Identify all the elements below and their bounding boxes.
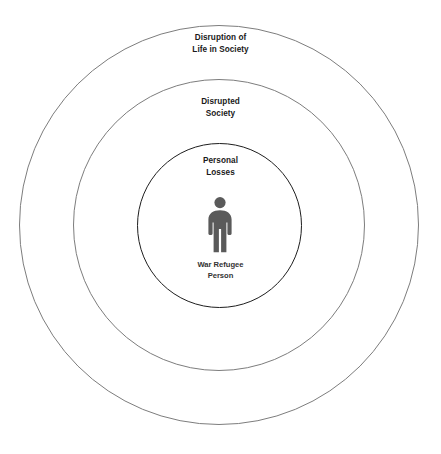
concentric-circles-diagram: Disruption of Life in Society Disrupted …	[0, 0, 441, 454]
person-icon	[204, 196, 236, 254]
ring-inner-label: Personal Losses	[0, 155, 441, 178]
ring-middle-label: Disrupted Society	[0, 96, 441, 119]
ring-outer-label: Disruption of Life in Society	[0, 32, 441, 55]
center-caption-war-refugee-person: War Refugee Person	[0, 260, 441, 281]
